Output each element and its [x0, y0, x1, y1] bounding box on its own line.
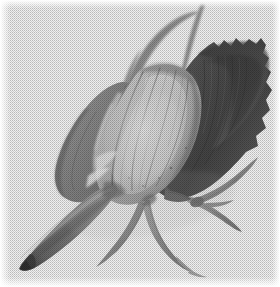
specimen-image — [0, 0, 280, 287]
halftone-photograph — [0, 0, 280, 287]
